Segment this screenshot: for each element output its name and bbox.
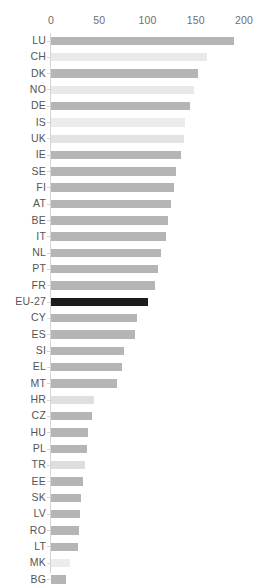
bar-cz xyxy=(51,412,92,420)
bar-at xyxy=(51,200,171,208)
y-axis-tick-mark xyxy=(47,334,50,335)
category-label-fr: FR xyxy=(2,279,46,291)
bar-hu xyxy=(51,428,88,436)
bar-ch xyxy=(51,53,207,61)
chart-row: PL xyxy=(0,441,269,457)
bar-ro xyxy=(51,526,79,534)
y-axis-tick-mark xyxy=(47,530,50,531)
category-label-is: IS xyxy=(2,116,46,128)
category-label-ie: IE xyxy=(2,148,46,160)
chart-row: DE xyxy=(0,98,269,114)
chart-row: EU-27 xyxy=(0,294,269,310)
category-label-si: SI xyxy=(2,344,46,356)
y-axis-tick-mark xyxy=(47,465,50,466)
chart-row: SE xyxy=(0,164,269,180)
chart-row: AT xyxy=(0,196,269,212)
category-label-ee: EE xyxy=(2,475,46,487)
category-label-fi: FI xyxy=(2,181,46,193)
category-label-lt: LT xyxy=(2,540,46,552)
category-label-no: NO xyxy=(2,83,46,95)
y-axis-tick-mark xyxy=(47,285,50,286)
category-label-es: ES xyxy=(2,328,46,340)
y-axis-tick-mark xyxy=(47,253,50,254)
y-axis-tick-mark xyxy=(47,416,50,417)
bar-de xyxy=(51,102,190,110)
bar-sk xyxy=(51,494,81,502)
category-label-mt: MT xyxy=(2,377,46,389)
category-label-tr: TR xyxy=(2,458,46,470)
chart-row: LU xyxy=(0,33,269,49)
y-axis-tick-mark xyxy=(47,449,50,450)
x-axis-tick-150: 150 xyxy=(187,14,205,26)
y-axis-tick-mark xyxy=(47,318,50,319)
category-label-nl: NL xyxy=(2,246,46,258)
bar-fi xyxy=(51,183,174,191)
bar-se xyxy=(51,167,176,175)
bar-hr xyxy=(51,396,94,404)
bar-lt xyxy=(51,543,78,551)
chart-row: IT xyxy=(0,229,269,245)
bar-mt xyxy=(51,379,117,387)
bar-be xyxy=(51,216,168,224)
category-label-it: IT xyxy=(2,230,46,242)
x-axis-tick-labels: 050100150200 xyxy=(0,14,269,30)
chart-row: FI xyxy=(0,180,269,196)
y-axis-tick-mark xyxy=(47,73,50,74)
bar-fr xyxy=(51,281,155,289)
x-axis-tick-200: 200 xyxy=(235,14,253,26)
chart-row: DK xyxy=(0,66,269,82)
y-axis-tick-mark xyxy=(47,269,50,270)
plot-area: LUCHDKNODEISUKIESEFIATBEITNLPTFREU-27CYE… xyxy=(0,33,269,576)
category-label-el: EL xyxy=(2,360,46,372)
y-axis-tick-mark xyxy=(47,302,50,303)
bar-es xyxy=(51,330,135,338)
category-label-hu: HU xyxy=(2,426,46,438)
chart-row: FR xyxy=(0,278,269,294)
y-axis-tick-mark xyxy=(47,155,50,156)
chart-row: MT xyxy=(0,376,269,392)
category-label-lu: LU xyxy=(2,34,46,46)
chart-row: TR xyxy=(0,457,269,473)
y-axis-tick-mark xyxy=(47,122,50,123)
bar-bg xyxy=(51,575,66,583)
category-label-sk: SK xyxy=(2,491,46,503)
category-label-hr: HR xyxy=(2,393,46,405)
bar-ee xyxy=(51,477,83,485)
chart-row: BG xyxy=(0,572,269,588)
chart-row: EE xyxy=(0,474,269,490)
category-label-cy: CY xyxy=(2,311,46,323)
category-label-ch: CH xyxy=(2,50,46,62)
chart-row: EL xyxy=(0,359,269,375)
x-axis-tick-50: 50 xyxy=(93,14,105,26)
bar-dk xyxy=(51,69,198,77)
y-axis-tick-mark xyxy=(47,138,50,139)
chart-row: PT xyxy=(0,261,269,277)
chart-row: LT xyxy=(0,539,269,555)
chart-row: CH xyxy=(0,49,269,65)
bar-pt xyxy=(51,265,158,273)
y-axis-tick-mark xyxy=(47,514,50,515)
bar-lv xyxy=(51,510,80,518)
chart-row: CY xyxy=(0,310,269,326)
x-axis-tick-0: 0 xyxy=(48,14,54,26)
y-axis-tick-mark xyxy=(47,497,50,498)
bar-si xyxy=(51,347,124,355)
y-axis-tick-mark xyxy=(47,400,50,401)
category-label-dk: DK xyxy=(2,67,46,79)
category-label-be: BE xyxy=(2,214,46,226)
category-label-bg: BG xyxy=(2,573,46,585)
chart-row: MK xyxy=(0,555,269,571)
y-axis-tick-mark xyxy=(47,383,50,384)
category-label-se: SE xyxy=(2,165,46,177)
y-axis-tick-mark xyxy=(47,351,50,352)
bar-lu xyxy=(51,37,234,45)
y-axis-tick-mark xyxy=(47,89,50,90)
category-label-at: AT xyxy=(2,197,46,209)
chart-row: BE xyxy=(0,213,269,229)
chart-row: SK xyxy=(0,490,269,506)
chart-row: RO xyxy=(0,523,269,539)
bar-eu-27 xyxy=(51,298,148,306)
chart-row: IE xyxy=(0,147,269,163)
bar-cy xyxy=(51,314,137,322)
